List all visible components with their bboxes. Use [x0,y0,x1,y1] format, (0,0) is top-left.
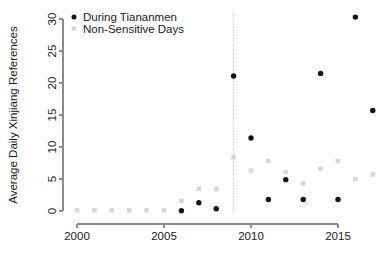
data-point-non-sensitive [353,177,358,182]
chart-legend: During TiananmenNon-Sensitive Days [72,11,185,35]
data-point-non-sensitive [144,208,149,213]
x-tick-label: 2005 [151,230,177,242]
data-point-non-sensitive [75,208,80,213]
data-point-non-sensitive [318,166,323,171]
y-axis-ticks [59,19,63,211]
y-tick-label: 10 [46,141,58,154]
data-point-during-tiananmen [301,197,306,202]
data-point-during-tiananmen [318,71,323,76]
data-point-during-tiananmen [248,135,253,140]
data-point-during-tiananmen [266,197,271,202]
series-non-sensitive-days [75,155,375,213]
y-tick-label: 5 [46,176,58,182]
series-during-tiananmen [179,14,376,213]
y-tick-label: 25 [46,45,58,58]
scatter-plot: 051015202530 2000200520102015 Average Da… [0,0,390,256]
x-tick-label: 2000 [64,230,90,242]
data-point-non-sensitive [336,159,341,164]
data-point-during-tiananmen [214,206,219,211]
legend-marker-during-tiananmen [72,15,77,20]
x-tick-label: 2015 [325,230,351,242]
data-point-non-sensitive [214,187,219,192]
data-point-non-sensitive [249,168,254,173]
data-point-non-sensitive [301,181,306,186]
chart-figure: 051015202530 2000200520102015 Average Da… [0,0,390,256]
y-tick-label: 0 [46,208,58,214]
y-tick-label: 30 [46,13,58,26]
data-point-during-tiananmen [231,73,236,78]
data-point-during-tiananmen [196,200,201,205]
data-point-non-sensitive [162,208,167,213]
data-point-non-sensitive [110,208,115,213]
legend-label-during-tiananmen: During Tiananmen [83,11,177,23]
data-point-during-tiananmen [283,177,288,182]
x-tick-label: 2010 [238,230,264,242]
data-point-during-tiananmen [370,108,375,113]
y-axis-title: Average Daily Xinjiang References [7,26,19,204]
x-axis-ticks [77,224,338,228]
legend-marker-non-sensitive-days [72,26,77,31]
data-point-non-sensitive [371,172,376,177]
data-point-non-sensitive [179,198,184,203]
data-point-non-sensitive [284,170,289,175]
y-tick-label: 15 [46,109,58,122]
data-point-during-tiananmen [179,208,184,213]
data-point-non-sensitive [266,159,271,164]
data-point-non-sensitive [197,186,202,191]
data-point-during-tiananmen [335,197,340,202]
y-tick-label: 20 [46,77,58,90]
data-point-during-tiananmen [353,14,358,19]
data-point-non-sensitive [231,155,236,160]
x-axis-tick-labels: 2000200520102015 [64,230,351,242]
legend-label-non-sensitive-days: Non-Sensitive Days [83,23,184,35]
y-axis-tick-labels: 051015202530 [46,13,58,215]
data-point-non-sensitive [92,208,97,213]
data-point-non-sensitive [127,208,132,213]
axes [59,19,338,228]
